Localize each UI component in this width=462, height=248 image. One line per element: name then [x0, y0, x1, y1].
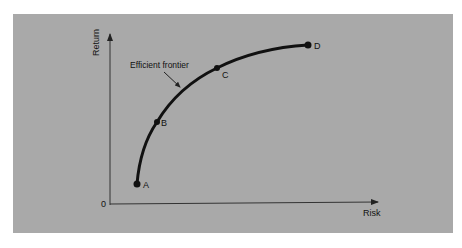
- y-axis-label: Return: [91, 29, 101, 56]
- frontier-annotation: Efficient frontier: [130, 60, 189, 70]
- x-axis-label: Risk: [363, 208, 381, 218]
- annotation-leader-arrow: [164, 72, 180, 87]
- x-axis: [110, 202, 378, 204]
- point-c-label: C: [222, 70, 229, 80]
- point-a: [134, 181, 141, 188]
- point-a-label: A: [143, 180, 149, 190]
- origin-label: 0: [101, 199, 106, 209]
- point-d-label: D: [314, 41, 321, 51]
- point-b-label: B: [161, 118, 167, 128]
- point-b: [154, 119, 160, 125]
- point-d: [305, 42, 312, 49]
- efficient-frontier-chart: Return Risk 0 A B C D Efficient frontier: [0, 0, 462, 248]
- point-c: [214, 65, 220, 71]
